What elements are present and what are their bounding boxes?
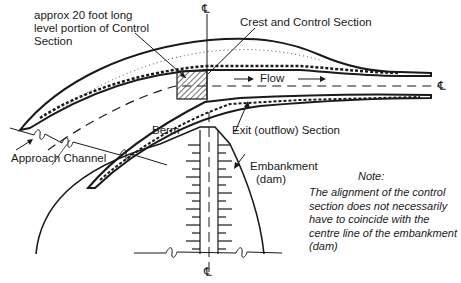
upper-channel-bank	[20, 39, 431, 130]
note-body: The alignment of the control section doe…	[309, 186, 457, 254]
ground-line	[134, 248, 282, 258]
label-control-portion: approx 20 foot long level portion of Con…	[34, 9, 149, 48]
embankment-slope-ticks-right	[218, 145, 232, 249]
label-embankment: Embankment (dam)	[250, 160, 318, 186]
centerline-symbol-right: ℄	[438, 80, 446, 92]
label-approach-channel: Approach Channel	[11, 152, 106, 165]
note-title: Note:	[358, 170, 384, 184]
label-crest-control-section: Crest and Control Section	[240, 16, 372, 29]
label-berm: Berm	[152, 124, 179, 137]
embankment-slope-ticks-left	[186, 145, 200, 249]
spillway-diagram: approx 20 foot long level portion of Con…	[0, 0, 461, 283]
label-exit-section: Exit (outflow) Section	[232, 124, 340, 137]
label-flow: Flow	[260, 72, 284, 85]
centerline-symbol-bottom: ℄	[204, 266, 212, 278]
centerline-symbol-top: ℄	[202, 3, 210, 15]
